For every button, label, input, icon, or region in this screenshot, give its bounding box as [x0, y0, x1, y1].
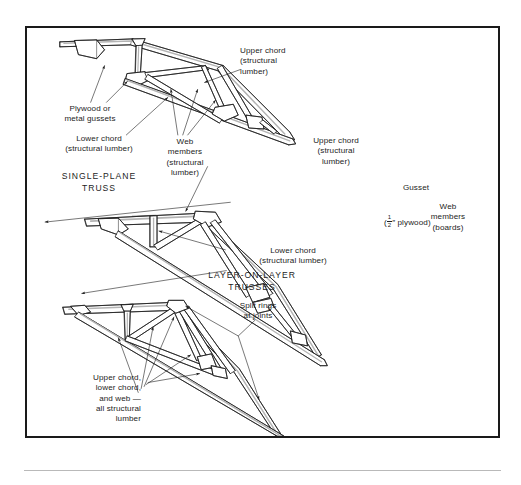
callout-web-members-2: Web members (boards): [405, 202, 491, 233]
callout-gusset-title: Gusset: [394, 183, 438, 193]
callout-lower-chord-1: Lower chord (structural lumber): [29, 134, 169, 155]
section-label-layer-on-layer: LAYER-ON-LAYER TRUSSES: [172, 270, 332, 293]
callout-all-structural-lumber: Upper chord, lower chord, and web — all …: [33, 373, 141, 424]
callout-upper-chord-1: Upper chord (structural lumber): [240, 46, 340, 77]
callout-lower-chord-2: Lower chord (structural lumber): [227, 246, 359, 267]
callout-split-rings: Split rings at joints: [213, 301, 303, 322]
leader-web-members-1b: [183, 89, 198, 135]
callout-upper-chord-2: Upper chord (structural lumber): [290, 136, 382, 167]
page-divider-rule: [24, 470, 501, 471]
web-member-vertical-2: [150, 216, 157, 247]
section-label-single-plane: SINGLE-PLANE TRUSS: [31, 171, 167, 194]
callout-plywood-gussets: Plywood or metal gussets: [33, 104, 147, 125]
leader-plywood-gussets-a: [91, 66, 105, 103]
figure-border-frame: Plywood or metal gussets Lower chord (st…: [25, 26, 500, 438]
leader-plywood-gussets-b: [107, 81, 128, 102]
joint-plate-lower-3: [212, 366, 228, 379]
